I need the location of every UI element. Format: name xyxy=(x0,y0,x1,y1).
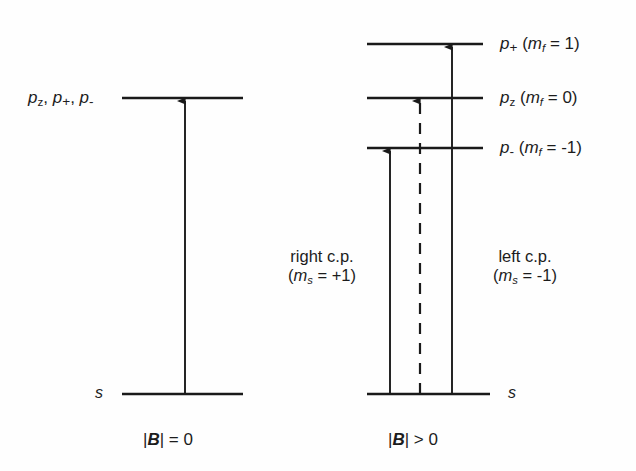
left-ground-level-label: s xyxy=(95,384,103,403)
left-excited-level-label: pz, p+, p- xyxy=(28,88,94,110)
right-cp-line2: (ms = +1) xyxy=(262,266,382,287)
left-cp-line1: left c.p. xyxy=(498,247,551,265)
left-cp-transition-label: left c.p. (ms = -1) xyxy=(465,247,585,288)
right-level-label-p-z: pz (mf = 0) xyxy=(500,88,578,110)
right-level-label-p-plus: p+ (mf = 1) xyxy=(500,34,580,56)
left-cp-line2: (ms = -1) xyxy=(465,266,585,287)
right-cp-line1: right c.p. xyxy=(290,247,353,265)
right-ground-level-label: s xyxy=(508,384,516,403)
right-level-label-p-minus: p- (mf = -1) xyxy=(500,138,582,160)
left-panel-group xyxy=(122,98,243,394)
right-cp-transition-label: right c.p. (ms = +1) xyxy=(262,247,382,288)
figure-canvas: pz, p+, p- s |B| = 0 p+ (mf = 1) pz (mf … xyxy=(0,0,636,471)
right-panel-caption: |B| > 0 xyxy=(388,430,438,450)
left-panel-caption: |B| = 0 xyxy=(143,430,193,450)
right-panel-group xyxy=(367,44,490,394)
